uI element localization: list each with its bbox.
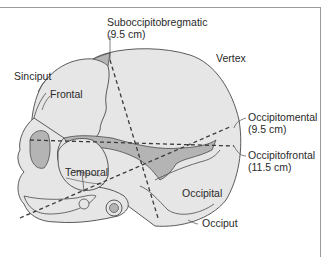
label-sinciput: Sinciput xyxy=(14,70,51,82)
label-occipitofrontal: Occipitofrontal (11.5 cm) xyxy=(248,149,315,173)
label-occipitomental-name: Occipitomental xyxy=(248,111,317,123)
label-suboccipitobregmatic-measure: (9.5 cm) xyxy=(107,28,207,40)
label-temporal: Temporal xyxy=(65,166,108,178)
label-occipital: Occipital xyxy=(182,187,222,199)
ear-bone xyxy=(79,199,89,209)
label-suboccipitobregmatic: Suboccipitobregmatic (9.5 cm) xyxy=(107,16,207,40)
label-occipitomental-measure: (9.5 cm) xyxy=(248,123,317,135)
label-occiput: Occiput xyxy=(202,217,238,229)
auditory-meatus-inner xyxy=(110,204,119,213)
label-frontal: Frontal xyxy=(50,88,83,100)
label-suboccipitobregmatic-name: Suboccipitobregmatic xyxy=(107,16,207,28)
orbit-shaded xyxy=(30,131,50,169)
label-vertex: Vertex xyxy=(216,52,246,64)
label-occipitomental: Occipitomental (9.5 cm) xyxy=(248,111,317,135)
label-occipitofrontal-name: Occipitofrontal xyxy=(248,149,315,161)
label-occipitofrontal-measure: (11.5 cm) xyxy=(248,161,315,173)
